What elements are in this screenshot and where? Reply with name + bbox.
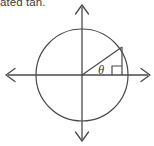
theta-angle-label: θ bbox=[98, 63, 104, 77]
unit-circle-figure: ated tan. θ bbox=[0, 0, 154, 146]
right-angle-marker-icon bbox=[112, 66, 122, 75]
unit-circle-diagram: θ bbox=[0, 0, 154, 146]
